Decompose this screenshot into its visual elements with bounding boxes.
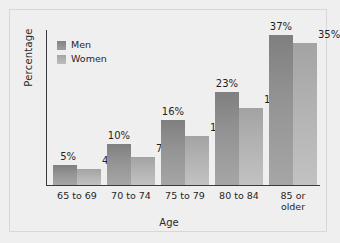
bar-pair: 23%19%: [215, 29, 263, 185]
bar-pair: 5%4%: [53, 29, 101, 185]
bar-men[interactable]: 23%: [215, 92, 239, 185]
bar-value-label: 5%: [60, 151, 76, 163]
bar-value-label: 35%: [318, 29, 340, 41]
x-axis-line: [46, 185, 320, 186]
bar-women[interactable]: 7%: [131, 157, 155, 185]
bar-group: 10%7%: [107, 29, 155, 185]
bar-men[interactable]: 16%: [161, 120, 185, 185]
bar-group: 23%19%: [215, 29, 263, 185]
x-axis-label: Age: [0, 217, 338, 228]
bar-men[interactable]: 10%: [107, 144, 131, 185]
bar-group: 37%35%: [269, 29, 317, 185]
bar-men[interactable]: 5%: [53, 165, 77, 185]
bar-value-label: 23%: [216, 78, 238, 90]
x-tick-label: 85 or older: [261, 190, 325, 212]
bar-value-label: 16%: [162, 106, 184, 118]
bar-value-label: 37%: [270, 21, 292, 33]
bar-men[interactable]: 37%: [269, 35, 293, 185]
y-axis-line: [46, 30, 47, 186]
bar-women[interactable]: 19%: [239, 108, 263, 185]
bar-pair: 10%7%: [107, 29, 155, 185]
bar-pair: 16%12%: [161, 29, 209, 185]
bar-group: 16%12%: [161, 29, 209, 185]
bar-value-label: 10%: [108, 130, 130, 142]
bar-group: 5%4%: [53, 29, 101, 185]
bar-women[interactable]: 35%: [293, 43, 317, 185]
bar-women[interactable]: 4%: [77, 169, 101, 185]
bar-pair: 37%35%: [269, 29, 317, 185]
y-axis-label: Percentage: [23, 3, 34, 113]
bar-women[interactable]: 12%: [185, 136, 209, 185]
